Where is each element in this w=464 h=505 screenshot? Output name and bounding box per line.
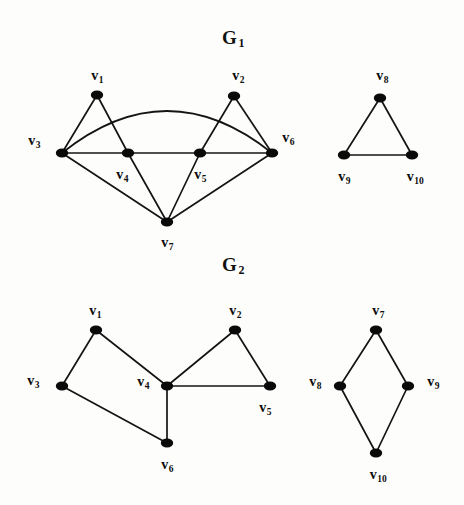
edge-g2-right-v7-v9 (376, 330, 408, 386)
graph-title-letter: G (222, 27, 237, 48)
graph-vertex-g2-left-v3 (56, 381, 68, 390)
vertex-label-letter: v (259, 400, 266, 415)
vertex-label-index: 5 (267, 407, 272, 417)
vertex-label-index: 2 (237, 310, 242, 320)
edge-g1-left-v1-v4 (97, 95, 128, 153)
vertex-label-index: 3 (35, 380, 40, 390)
vertex-label-letter: v (28, 133, 35, 148)
vertex-label-g1-right-v10: v10 (407, 169, 424, 185)
vertex-label-index: 8 (317, 381, 322, 391)
vertex-label-g2-left-v6: v6 (161, 457, 173, 473)
vertex-label-letter: v (370, 467, 377, 482)
graph-title-index: 1 (238, 36, 245, 50)
graph-vertex-g2-right-v8 (334, 381, 346, 390)
edge-g2-right-v7-v8 (340, 330, 376, 386)
vertex-label-letter: v (282, 130, 289, 145)
vertex-label-g2-left-v1: v1 (89, 303, 101, 319)
vertex-label-index: 7 (169, 242, 174, 252)
graph-vertex-g1-right-v9 (338, 150, 350, 159)
edge-g2-right-v8-v10 (340, 386, 376, 453)
vertex-label-index: 4 (124, 174, 129, 184)
vertex-label-letter: v (232, 68, 239, 83)
vertex-label-letter: v (89, 303, 96, 318)
graph-vertex-g1-left-v1 (91, 90, 103, 99)
vertex-label-g1-right-v8: v8 (376, 68, 388, 84)
vertex-label-letter: v (194, 167, 201, 182)
vertex-label-index: 6 (169, 464, 174, 474)
graph-vertex-g1-left-v7 (161, 217, 173, 226)
vertex-label-index: 9 (346, 176, 351, 186)
graph-title-g1: G1 (222, 27, 244, 49)
graph-vertex-g2-left-v1 (90, 325, 102, 334)
graph-title-letter: G (222, 254, 237, 275)
edge-g2-left-v2-v5 (235, 330, 270, 386)
vertex-label-g2-right-v10: v10 (370, 467, 387, 483)
graph-vertex-g1-left-v5 (194, 148, 206, 157)
vertex-label-g1-left-v6: v6 (282, 130, 294, 146)
graph-title-g2: G2 (222, 254, 244, 276)
edge-g1-right-v8-v9 (344, 98, 380, 155)
vertex-label-index: 7 (380, 310, 385, 320)
edge-g1-left-v2-v5 (200, 96, 234, 153)
graph-vertex-g2-right-v7 (370, 325, 382, 334)
edge-g1-left-v4-v7 (128, 153, 167, 222)
vertex-label-letter: v (91, 68, 98, 83)
vertex-label-letter: v (116, 167, 123, 182)
edge-g2-left-v1-v3 (62, 330, 96, 386)
vertex-label-g2-left-v2: v2 (229, 303, 241, 319)
vertex-label-index: 2 (240, 75, 245, 85)
vertex-label-g2-left-v5: v5 (259, 400, 271, 416)
vertex-label-g1-left-v2: v2 (232, 68, 244, 84)
vertex-label-index: 6 (290, 137, 295, 147)
vertex-label-letter: v (27, 373, 34, 388)
graph-vertex-g2-right-v10 (370, 448, 382, 457)
vertex-label-g1-right-v9: v9 (338, 169, 350, 185)
vertex-label-letter: v (161, 235, 168, 250)
edge-g2-right-v9-v10 (376, 386, 408, 453)
vertex-label-g2-right-v9: v9 (427, 374, 439, 390)
graph-vertex-g1-left-v2 (228, 91, 240, 100)
vertex-label-letter: v (407, 169, 414, 184)
vertex-label-letter: v (376, 68, 383, 83)
edge-g1-left-v3-v7 (62, 153, 167, 222)
vertex-label-g2-right-v7: v7 (372, 303, 384, 319)
graph-vertex-g1-left-v4 (122, 148, 134, 157)
vertex-label-letter: v (229, 303, 236, 318)
vertex-label-letter: v (161, 457, 168, 472)
graph-vertex-g2-left-v6 (161, 438, 173, 447)
graph-vertex-g1-right-v10 (406, 150, 418, 159)
graph-vertex-g2-right-v9 (402, 381, 414, 390)
vertex-label-g2-left-v3: v3 (27, 373, 39, 389)
vertex-label-g2-right-v8: v8 (309, 374, 321, 390)
vertex-label-g1-left-v3: v3 (28, 133, 40, 149)
vertex-label-index: 8 (384, 75, 389, 85)
vertex-label-index: 9 (435, 381, 440, 391)
edge-g1-left-v2-v6 (234, 96, 272, 153)
vertex-label-g1-left-v1: v1 (91, 68, 103, 84)
vertex-label-g2-left-v4: v4 (137, 374, 149, 390)
edge-g1-right-v8-v10 (380, 98, 412, 155)
vertex-label-index: 4 (145, 381, 150, 391)
vertex-label-index: 5 (202, 174, 207, 184)
graph-vertex-g2-left-v2 (229, 325, 241, 334)
graph-vertex-g1-left-v3 (56, 148, 68, 157)
vertex-label-letter: v (427, 374, 434, 389)
vertex-label-index: 1 (97, 310, 102, 320)
vertex-label-g1-left-v4: v4 (116, 167, 128, 183)
vertex-label-letter: v (309, 374, 316, 389)
vertex-label-letter: v (137, 374, 144, 389)
vertex-label-g1-left-v5: v5 (194, 167, 206, 183)
edge-g1-left-v3-v6 (62, 111, 272, 153)
graph-vertex-g2-left-v5 (264, 381, 276, 390)
edge-g2-left-v2-v4 (167, 330, 235, 386)
graph-title-index: 2 (238, 263, 245, 277)
graph-vertex-g1-left-v6 (266, 148, 278, 157)
vertex-label-g1-left-v7: v7 (161, 235, 173, 251)
vertex-label-index: 3 (36, 140, 41, 150)
edge-g1-left-v1-v3 (62, 95, 97, 153)
graph-figure: G1v1v2v3v4v5v6v7v8v9v10G2v1v2v3v4v5v6v7v… (0, 0, 464, 505)
vertex-label-index: 10 (414, 176, 424, 186)
vertex-label-letter: v (338, 169, 345, 184)
edge-g2-left-v3-v6 (62, 386, 167, 443)
edge-g2-left-v1-v4 (96, 330, 167, 386)
